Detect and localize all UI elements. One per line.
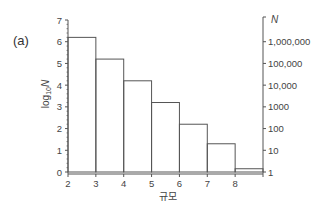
y-tick-label: 4 xyxy=(57,80,62,91)
x-tick-label: 3 xyxy=(93,178,98,189)
y-tick-label: 6 xyxy=(57,36,62,47)
y-tick-label: 0 xyxy=(57,167,62,178)
y-tick-label: 3 xyxy=(57,101,62,112)
axes: 01234567110100100010,000100,0001,000,000… xyxy=(40,14,310,202)
histogram-bar xyxy=(235,169,263,172)
histogram-bar xyxy=(124,81,152,172)
y-right-tick-label: 100,000 xyxy=(268,58,302,69)
histogram-bar xyxy=(207,144,235,172)
y-right-tick-label: 1 xyxy=(268,167,273,178)
y-tick-label: 1 xyxy=(57,145,62,156)
x-tick-label: 7 xyxy=(205,178,210,189)
y-tick-label: 2 xyxy=(57,123,62,134)
y-tick-label: 5 xyxy=(57,58,62,69)
x-tick-label: 8 xyxy=(232,178,237,189)
y-right-tick-label: 1000 xyxy=(268,101,289,112)
x-tick-label: 5 xyxy=(149,178,154,189)
histogram-bar xyxy=(96,59,124,172)
histogram-bar xyxy=(68,37,96,172)
x-tick-label: 6 xyxy=(177,178,182,189)
x-axis-title: 규모 xyxy=(159,191,177,202)
histogram-chart: 01234567110100100010,000100,0001,000,000… xyxy=(0,0,313,210)
y-right-tick-label: 100 xyxy=(268,123,284,134)
y-axis-right-title: N xyxy=(271,14,279,25)
histogram-bar xyxy=(179,124,207,172)
y-right-tick-label: 10 xyxy=(268,145,279,156)
histogram-bars xyxy=(68,37,263,172)
x-tick-label: 4 xyxy=(121,178,126,189)
y-tick-label: 7 xyxy=(57,15,62,26)
x-tick-label: 2 xyxy=(65,178,70,189)
histogram-bar xyxy=(152,103,180,172)
y-axis-title: log10N xyxy=(40,79,52,108)
y-right-tick-label: 10,000 xyxy=(268,80,297,91)
y-right-tick-label: 1,000,000 xyxy=(268,36,310,47)
